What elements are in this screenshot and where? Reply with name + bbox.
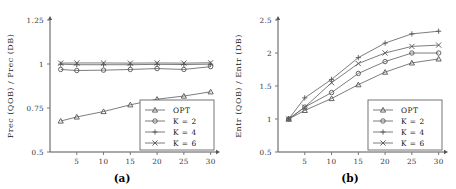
legend-label: OPT <box>401 106 418 115</box>
legend-label: OPT <box>173 106 190 115</box>
x-tick-label: 20 <box>380 157 390 166</box>
y-tick-label: 0.75 <box>27 104 44 113</box>
x-tick-label: 10 <box>99 157 109 166</box>
x-axis-arrow <box>216 150 220 154</box>
chart-a-legend: OPTK = 2K = 4K = 6 <box>140 100 214 150</box>
y-tick-label: 1.25 <box>27 16 44 25</box>
series-line-k-2 <box>61 67 211 71</box>
chart-svg-a: 0.50.7511.2551015202530 OPTK = 2K = 4K =… <box>0 0 228 189</box>
data-point <box>436 29 441 34</box>
data-point <box>436 56 441 61</box>
x-tick-label: 20 <box>152 157 162 166</box>
x-tick-label: 10 <box>327 157 337 166</box>
data-point <box>382 41 387 46</box>
legend-label: K = 4 <box>401 128 425 137</box>
panel-caption-a: (a) <box>114 172 131 184</box>
legend-label: K = 6 <box>173 139 197 148</box>
y-tick-label: 2 <box>267 49 272 58</box>
y-axis-arrow <box>276 16 280 20</box>
y-tick-label: 1 <box>39 60 44 69</box>
y-axis-title-a: Prec (QOB) / Prec (DB) <box>6 34 15 138</box>
y-tick-label: 0.5 <box>32 148 45 157</box>
legend-label: K = 6 <box>401 139 425 148</box>
y-axis-arrow <box>48 16 52 20</box>
data-point <box>356 61 361 66</box>
legend-label: K = 4 <box>173 128 197 137</box>
chart-panel-a: 0.50.7511.2551015202530 OPTK = 2K = 4K =… <box>0 0 228 189</box>
x-tick-label: 15 <box>353 157 363 166</box>
data-point <box>409 31 414 36</box>
legend-label: K = 2 <box>401 117 425 126</box>
y-axis-title-b: Entr (QOB) / Entr (DB) <box>234 34 243 138</box>
x-axis-arrow <box>444 150 448 154</box>
y-tick-label: 1 <box>267 115 272 124</box>
x-tick-label: 5 <box>302 157 307 166</box>
y-tick-label: 1.5 <box>260 82 273 91</box>
y-tick-label: 0.5 <box>260 148 273 157</box>
x-tick-label: 30 <box>434 157 444 166</box>
data-point <box>208 89 213 94</box>
x-tick-label: 25 <box>179 157 189 166</box>
x-tick-label: 15 <box>125 157 135 166</box>
chart-svg-b: 0.511.522.551015202530 OPTK = 2K = 4K = … <box>228 0 456 189</box>
x-tick-label: 25 <box>407 157 417 166</box>
series-line-k-4 <box>61 64 211 65</box>
chart-b-legend: OPTK = 2K = 4K = 6 <box>368 100 442 150</box>
chart-panel-b: 0.511.522.551015202530 OPTK = 2K = 4K = … <box>228 0 456 189</box>
y-tick-label: 2.5 <box>260 16 273 25</box>
x-tick-label: 5 <box>74 157 79 166</box>
figure-root: 0.50.7511.2551015202530 OPTK = 2K = 4K =… <box>0 0 456 189</box>
x-tick-label: 30 <box>206 157 216 166</box>
panel-caption-b: (b) <box>341 172 358 184</box>
data-point <box>58 62 63 67</box>
legend-label: K = 2 <box>173 117 197 126</box>
